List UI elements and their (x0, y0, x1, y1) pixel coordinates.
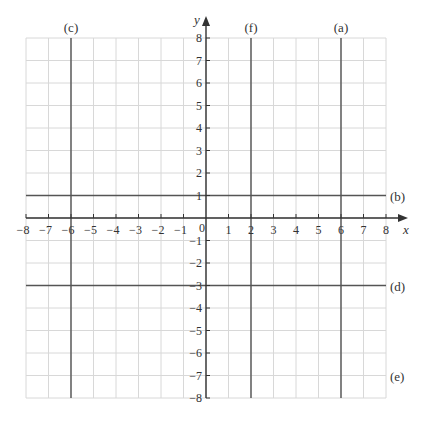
y-tick-label: −2 (189, 256, 202, 270)
line-b-label: (b) (390, 189, 405, 204)
x-tick-label: 3 (271, 223, 277, 237)
y-tick-label: −1 (189, 234, 202, 248)
axes (26, 16, 408, 398)
x-tick-label: 2 (248, 223, 254, 237)
x-tick-label: −7 (39, 223, 52, 237)
y-tick-label: −6 (189, 346, 202, 360)
x-tick-label: −6 (62, 223, 75, 237)
tick-labels: −8−7−6−5−4−3−2−112345678−8−7−6−5−4−3−2−1… (17, 12, 410, 405)
y-tick-label: 3 (196, 144, 202, 158)
y-axis-arrow-icon (202, 16, 210, 26)
y-axis-label: y (192, 12, 200, 27)
y-tick-label: 2 (196, 166, 202, 180)
x-tick-label: 6 (338, 223, 344, 237)
x-tick-label: 8 (383, 223, 389, 237)
x-tick-label: 7 (361, 223, 367, 237)
x-tick-label: 4 (293, 223, 299, 237)
x-tick-label: −2 (152, 223, 165, 237)
line-a-label: (a) (334, 20, 348, 35)
y-tick-label: 6 (196, 76, 202, 90)
y-tick-label: 5 (196, 99, 202, 113)
line-d-label: (d) (390, 279, 405, 294)
y-tick-label: 8 (196, 31, 202, 45)
x-tick-label: −5 (84, 223, 97, 237)
x-axis-label: x (402, 222, 409, 237)
coordinate-plane: −8−7−6−5−4−3−2−112345678−8−7−6−5−4−3−2−1… (0, 0, 428, 421)
y-tick-label: 1 (196, 189, 202, 203)
x-tick-label: 5 (316, 223, 322, 237)
line-c-label: (c) (64, 20, 78, 35)
y-tick-label: −5 (189, 324, 202, 338)
y-tick-label: −4 (189, 301, 202, 315)
y-tick-label: −8 (189, 391, 202, 405)
x-tick-label: −3 (129, 223, 142, 237)
y-tick-label: −7 (189, 369, 202, 383)
y-tick-label: 7 (196, 54, 202, 68)
line-e-label: (e) (390, 369, 404, 384)
origin-label: 0 (199, 221, 205, 235)
y-tick-label: −3 (189, 279, 202, 293)
x-tick-label: −1 (174, 223, 187, 237)
line-labels: (a)(b)(c)(d)(e)(f) (64, 20, 405, 384)
x-axis-arrow-icon (398, 214, 408, 222)
y-tick-label: 4 (196, 121, 202, 135)
x-tick-label: 1 (226, 223, 232, 237)
x-tick-label: −4 (107, 223, 120, 237)
line-f-label: (f) (245, 20, 258, 35)
x-tick-label: −8 (17, 223, 30, 237)
